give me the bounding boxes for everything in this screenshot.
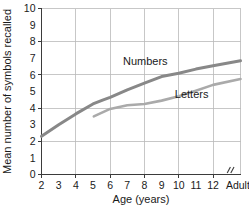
x-tick-label: 3 xyxy=(56,179,62,191)
y-tick-label: 8 xyxy=(30,35,36,47)
x-tick-label: 4 xyxy=(73,179,79,191)
x-tick-label: Adults xyxy=(226,179,249,191)
series-label-letters: Letters xyxy=(175,88,209,100)
y-tick-label: 5 xyxy=(30,85,36,97)
series-label-numbers: Numbers xyxy=(123,55,168,67)
x-tick-label: 8 xyxy=(142,179,148,191)
x-tick-label: 9 xyxy=(159,179,165,191)
y-tick-label: 2 xyxy=(30,135,36,147)
x-tick-label: 6 xyxy=(107,179,113,191)
x-tick-label: 2 xyxy=(39,179,45,191)
y-tick-label: 0 xyxy=(30,168,36,180)
y-tick-label: 1 xyxy=(30,152,36,164)
x-tick-label: 7 xyxy=(124,179,130,191)
chart-container: 012345678910 23456789101112Adults Number… xyxy=(0,0,249,210)
x-axis-title: Age (years) xyxy=(113,193,170,205)
y-tick-label: 4 xyxy=(30,102,36,114)
x-tick-label: 12 xyxy=(207,179,219,191)
x-tick-label: 5 xyxy=(90,179,96,191)
x-tick-label: 11 xyxy=(190,179,201,191)
y-tick-label: 6 xyxy=(30,69,36,81)
y-tick-label: 10 xyxy=(24,2,36,14)
y-tick-label: 3 xyxy=(30,118,36,130)
recall-by-age-line-chart: 012345678910 23456789101112Adults Number… xyxy=(0,0,249,210)
y-tick-label: 7 xyxy=(30,52,36,64)
y-tick-label: 9 xyxy=(30,19,36,31)
x-tick-label: 10 xyxy=(173,179,185,191)
y-axis-title: Mean number of symbols recalled xyxy=(1,9,13,174)
